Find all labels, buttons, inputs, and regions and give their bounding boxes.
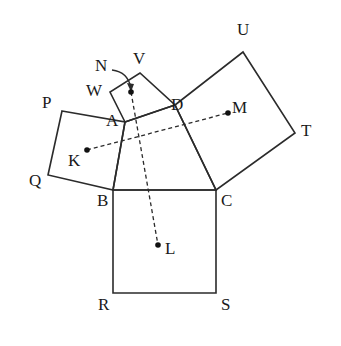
vertex-label-C: C [221, 192, 232, 209]
vertex-label-T: T [301, 122, 311, 139]
vertex-label-U: U [237, 21, 249, 38]
square-AWVD [110, 73, 175, 122]
center-dot-K [84, 147, 90, 153]
vertex-label-B: B [97, 192, 108, 209]
vertex-label-A: A [106, 112, 118, 129]
vertex-label-D: D [171, 96, 183, 113]
center-dot-M [225, 110, 231, 116]
center-label-M: M [232, 99, 247, 116]
figure-svg [0, 0, 341, 346]
vertex-label-S: S [221, 296, 230, 313]
geometry-figure: A B C D P Q R S T U V W K L M N [0, 0, 341, 346]
vertex-label-W: W [86, 82, 102, 99]
center-dot-N [128, 89, 134, 95]
triangle-ABC [113, 105, 216, 190]
vertex-label-V: V [133, 50, 145, 67]
vertex-label-R: R [98, 296, 109, 313]
center-label-L: L [165, 240, 175, 257]
vertex-label-Q: Q [29, 172, 41, 189]
center-label-N: N [95, 57, 107, 74]
center-label-K: K [68, 152, 80, 169]
square-DUTC [175, 52, 295, 190]
center-dot-L [155, 242, 161, 248]
vertex-label-P: P [42, 94, 51, 111]
